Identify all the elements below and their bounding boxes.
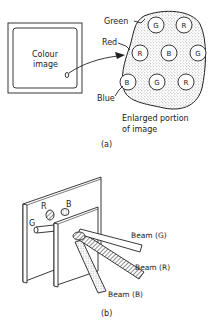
- dot-label: B: [125, 79, 130, 87]
- callout-green: Green: [104, 17, 128, 26]
- callout-red-leader: [118, 43, 130, 50]
- callout-blue-leader: [115, 86, 123, 96]
- screen-label-line1: Colour: [32, 50, 59, 59]
- dot-label: R: [182, 22, 187, 30]
- sample-point: [65, 73, 69, 78]
- magnify-arrow: [69, 56, 118, 73]
- arrow-head-icon: [115, 52, 125, 59]
- dot-label: G: [154, 79, 159, 87]
- enlarged-caption-line1: Enlarged portion: [122, 114, 189, 123]
- colour-screen: Colour image: [8, 23, 82, 93]
- beam-label-g: Beam (G): [131, 231, 167, 240]
- gun-label-b: B: [66, 200, 72, 209]
- panel-a: Colour image G R R B G B G R: [8, 11, 206, 149]
- crt-colour-diagram: Colour image G R R B G B G R: [0, 0, 213, 329]
- dot-label: G: [153, 22, 158, 30]
- beam-aperture: [73, 232, 85, 240]
- caption-a: (a): [101, 140, 112, 149]
- gun-label-g: G: [29, 219, 35, 228]
- panel-b: R B G Beam (G) Beam (R) Beam (B) (b): [23, 177, 170, 318]
- dot-label: R: [138, 50, 143, 58]
- dot-label: R: [184, 79, 189, 87]
- callout-red: Red: [102, 38, 117, 47]
- caption-b: (b): [101, 309, 112, 318]
- beam-label-r: Beam (R): [135, 263, 170, 272]
- screen-label-line2: image: [33, 60, 58, 69]
- callout-blue: Blue: [97, 94, 115, 103]
- enlarged-caption-line2: of image: [122, 125, 157, 134]
- gun-label-r: R: [41, 202, 47, 211]
- beam-label-b: Beam (B): [108, 290, 143, 299]
- dot-label: B: [167, 50, 172, 58]
- dot-label: G: [195, 50, 200, 58]
